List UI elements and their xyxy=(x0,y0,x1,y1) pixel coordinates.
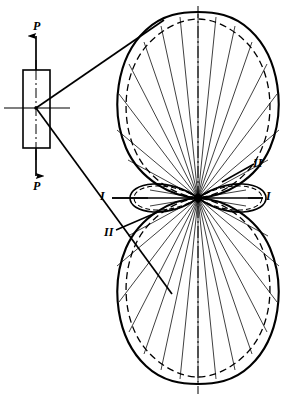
radial-ray-up xyxy=(119,94,198,198)
polar-diagram-svg xyxy=(0,0,281,399)
radial-ray-up xyxy=(180,17,198,198)
leader-label-ii-lower-left xyxy=(116,212,158,230)
load-label-top: P xyxy=(33,20,40,32)
radial-ray-up xyxy=(129,64,198,198)
radial-ray-down xyxy=(119,198,198,302)
lobe-label-i-right: I xyxy=(266,190,271,202)
lobe-label-ii-lower-left: II xyxy=(104,226,113,238)
radial-ray-up xyxy=(198,64,267,198)
radial-ray-down xyxy=(198,198,277,302)
radial-ray-up xyxy=(198,94,277,198)
figure-container: P P I I II II xyxy=(0,0,281,399)
radial-ray-down xyxy=(198,198,216,379)
leader-label-ii-upper-right xyxy=(222,164,254,182)
centre-convergence-point xyxy=(194,194,202,202)
radial-ray-up xyxy=(161,26,198,198)
radial-ray-down xyxy=(129,198,198,332)
radial-ray-down xyxy=(198,198,235,370)
radial-ray-down xyxy=(198,198,267,332)
radial-ray-down xyxy=(180,198,198,379)
lobe-label-i-left: I xyxy=(100,190,105,202)
specimen-group xyxy=(4,36,70,176)
callout-leader-lines xyxy=(36,20,172,294)
lobe-label-ii-upper-right: II xyxy=(253,157,262,169)
radial-ray-down xyxy=(161,198,198,370)
radial-ray-up xyxy=(198,17,216,198)
radial-ray-up xyxy=(198,26,235,198)
load-label-bottom: P xyxy=(33,180,40,192)
